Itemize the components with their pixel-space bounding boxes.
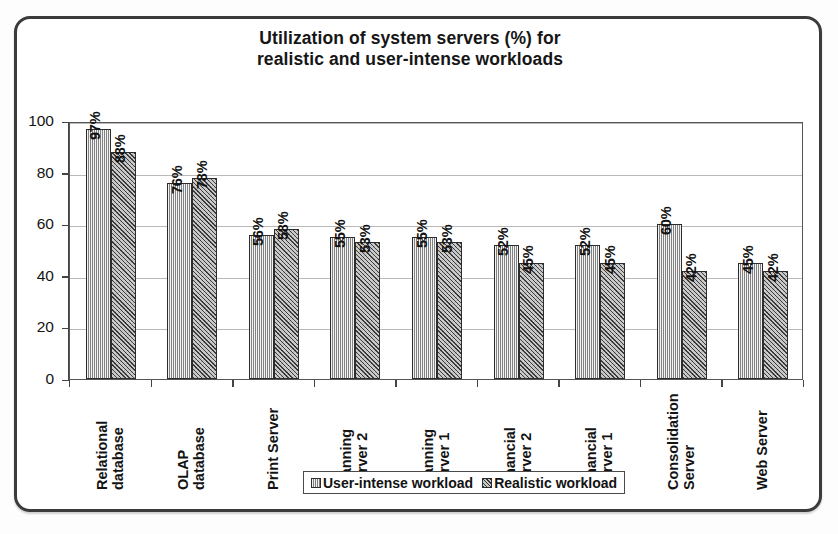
- bar: [519, 263, 544, 379]
- bar-value-label: 42%: [765, 253, 781, 281]
- y-axis-tick-label: 20: [8, 320, 54, 334]
- x-axis-tick: [640, 380, 641, 387]
- bar: [437, 242, 462, 379]
- chart-title-line-2: realistic and user-intense workloads: [150, 49, 670, 70]
- bar: [330, 237, 355, 379]
- y-axis-tick-label: 40: [8, 269, 54, 283]
- bar-value-label: 58%: [275, 212, 291, 240]
- bar-value-label: 78%: [194, 160, 210, 188]
- x-axis-category-label: OLAPdatabase: [175, 427, 207, 490]
- bar: [657, 224, 682, 379]
- y-axis-tick-label: 80: [8, 166, 54, 180]
- bar-value-label: 52%: [577, 227, 593, 255]
- x-axis-tick: [232, 380, 233, 387]
- bar-value-label: 52%: [495, 227, 511, 255]
- bar-value-label: 55%: [414, 220, 430, 248]
- bar: [249, 235, 274, 379]
- bar: [192, 178, 217, 379]
- y-axis-tick-label: 0: [8, 372, 54, 386]
- x-axis-tick: [477, 380, 478, 387]
- x-axis-tick: [395, 380, 396, 387]
- legend-swatch-icon-realistic: [482, 478, 492, 488]
- x-axis-category-label: ConsolidationServer: [665, 393, 697, 490]
- x-axis-category-label-line: Print Server: [265, 408, 281, 490]
- x-axis-category-label-line: Server: [681, 393, 697, 490]
- bar: [111, 152, 136, 379]
- x-axis-category-label-line: database: [191, 427, 207, 490]
- x-axis-category-label: Web Server: [754, 410, 770, 490]
- x-axis-tick: [721, 380, 722, 387]
- bar: [600, 263, 625, 379]
- x-axis-category-label-line: Consolidation: [665, 393, 681, 490]
- x-axis-category-label-line: database: [110, 421, 126, 490]
- chart-title: Utilization of system servers (%) for re…: [150, 28, 670, 70]
- x-axis-category-label-line: Web Server: [754, 410, 770, 490]
- bar-value-label: 56%: [250, 217, 266, 245]
- bar-value-label: 88%: [112, 135, 128, 163]
- x-axis-category-label-line: Relational: [94, 421, 110, 490]
- x-axis-tick: [314, 380, 315, 387]
- chart-legend: User-intense workload Realistic workload: [303, 471, 625, 494]
- bar: [167, 183, 192, 379]
- chart-page: Utilization of system servers (%) for re…: [0, 0, 838, 534]
- bar: [494, 245, 519, 379]
- bar: [355, 242, 380, 379]
- bar: [763, 271, 788, 379]
- plot-area: [69, 122, 803, 380]
- bar-value-label: 53%: [357, 225, 373, 253]
- y-axis-tick-label: 60: [8, 217, 54, 231]
- bar-value-label: 45%: [520, 245, 536, 273]
- bar: [412, 237, 437, 379]
- chart-title-line-1: Utilization of system servers (%) for: [150, 28, 670, 49]
- x-axis-tick: [69, 380, 70, 387]
- bar-value-label: 76%: [169, 165, 185, 193]
- legend-label-realistic: Realistic workload: [494, 475, 617, 491]
- x-axis-category-label: Print Server: [265, 408, 281, 490]
- legend-item-user-intense: User-intense workload: [311, 475, 473, 491]
- legend-label-user-intense: User-intense workload: [323, 475, 473, 491]
- bar-value-label: 53%: [439, 225, 455, 253]
- bar-value-label: 60%: [658, 207, 674, 235]
- y-axis-tick-label: 100: [8, 114, 54, 128]
- x-axis-tick: [558, 380, 559, 387]
- bar: [86, 129, 111, 379]
- bar-value-label: 45%: [602, 245, 618, 273]
- gridline-100: [70, 123, 802, 124]
- bar-value-label: 55%: [332, 220, 348, 248]
- x-axis-category-label-line: OLAP: [175, 427, 191, 490]
- x-axis-category-label: Relationaldatabase: [94, 421, 126, 490]
- bar: [274, 229, 299, 379]
- bar-value-label: 97%: [87, 111, 103, 139]
- legend-swatch-icon-user-intense: [311, 478, 321, 488]
- x-axis-tick: [151, 380, 152, 387]
- x-axis-tick: [803, 380, 804, 387]
- bar: [738, 263, 763, 379]
- legend-item-realistic: Realistic workload: [482, 475, 617, 491]
- bar: [682, 271, 707, 379]
- bar: [575, 245, 600, 379]
- bar-value-label: 42%: [683, 253, 699, 281]
- bar-value-label: 45%: [740, 245, 756, 273]
